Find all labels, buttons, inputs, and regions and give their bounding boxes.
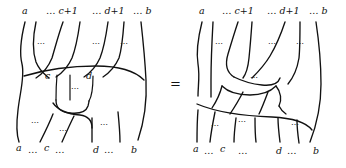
right-tangle-strands [0,0,346,168]
braid-identity-figure: a … c+1 … d+1 … b ⋯ ⋯ ⋯ c d ⋯ ⋯ ⋯ ⋯ a … … [0,0,346,168]
